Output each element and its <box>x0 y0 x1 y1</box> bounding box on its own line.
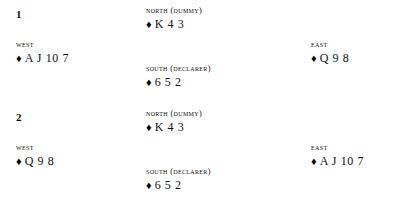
holding-ranks-south: 6 5 2 <box>155 178 182 192</box>
diamond-suit-icon: ♦ <box>146 121 152 133</box>
diamond-suit-icon: ♦ <box>16 52 22 64</box>
holding-ranks-east: Q 9 8 <box>320 51 350 65</box>
hand-south: SOUTH (DECLARER) ♦6 5 2 <box>146 64 211 90</box>
holding-ranks-west: A J 10 7 <box>25 51 69 65</box>
seat-label-north: NORTH (DUMMY) <box>146 109 202 119</box>
diamond-suit-icon: ♦ <box>311 52 317 64</box>
seat-label-east: EAST <box>311 143 364 153</box>
seat-label-west: WEST <box>16 40 69 50</box>
holding-north: ♦K 4 3 <box>146 120 202 135</box>
seat-label-east: EAST <box>311 40 349 50</box>
hand-west: WEST ♦A J 10 7 <box>16 40 69 66</box>
hand-west: WEST ♦Q 9 8 <box>16 143 54 169</box>
diamond-suit-icon: ♦ <box>146 76 152 88</box>
hand-south: SOUTH (DECLARER) ♦6 5 2 <box>146 167 211 193</box>
holding-west: ♦Q 9 8 <box>16 154 54 169</box>
bridge-deal-diagram-1: 1 NORTH (DUMMY) ♦K 4 3 WEST ♦A J 10 7 EA… <box>0 0 400 103</box>
hand-east: EAST ♦A J 10 7 <box>311 143 364 169</box>
holding-east: ♦Q 9 8 <box>311 51 349 66</box>
seat-label-south: SOUTH (DECLARER) <box>146 167 211 177</box>
bridge-deal-diagram-2: 2 NORTH (DUMMY) ♦K 4 3 WEST ♦Q 9 8 EAST … <box>0 103 400 206</box>
diamond-suit-icon: ♦ <box>311 155 317 167</box>
diamond-suit-icon: ♦ <box>16 155 22 167</box>
holding-south: ♦6 5 2 <box>146 178 211 193</box>
holding-north: ♦K 4 3 <box>146 17 202 32</box>
hand-east: EAST ♦Q 9 8 <box>311 40 349 66</box>
holding-ranks-west: Q 9 8 <box>25 154 55 168</box>
seat-label-west: WEST <box>16 143 54 153</box>
diamond-suit-icon: ♦ <box>146 179 152 191</box>
diamond-suit-icon: ♦ <box>146 18 152 30</box>
seat-label-south: SOUTH (DECLARER) <box>146 64 211 74</box>
holding-south: ♦6 5 2 <box>146 75 211 90</box>
holding-ranks-north: K 4 3 <box>155 120 185 134</box>
holding-east: ♦A J 10 7 <box>311 154 364 169</box>
holding-ranks-east: A J 10 7 <box>320 154 364 168</box>
deal-number: 1 <box>16 8 22 20</box>
deal-number: 2 <box>16 111 22 123</box>
holding-ranks-south: 6 5 2 <box>155 75 182 89</box>
hand-north: NORTH (DUMMY) ♦K 4 3 <box>146 6 202 32</box>
seat-label-north: NORTH (DUMMY) <box>146 6 202 16</box>
hand-north: NORTH (DUMMY) ♦K 4 3 <box>146 109 202 135</box>
holding-west: ♦A J 10 7 <box>16 51 69 66</box>
holding-ranks-north: K 4 3 <box>155 17 185 31</box>
